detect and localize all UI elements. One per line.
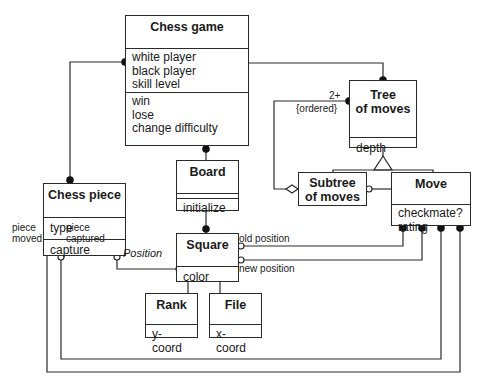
class-chess-game: Chess game white player black player ski… — [125, 15, 249, 146]
old-position-label: old position — [239, 233, 290, 244]
title-line: Tree — [354, 88, 412, 102]
class-title: Rank — [146, 294, 197, 324]
multiplicity-label: 2+ — [329, 90, 340, 101]
piece-captured-label: piece captured — [66, 222, 105, 244]
class-chess-piece: Chess piece type capture — [43, 183, 126, 256]
class-tree-of-moves: Tree of moves depth — [349, 80, 417, 148]
title-line: Subtree — [303, 176, 362, 190]
new-position-label: new position — [239, 263, 295, 274]
operation: change difficulty — [132, 122, 242, 136]
class-title: File — [210, 294, 261, 324]
ordered-label: {ordered} — [296, 103, 337, 114]
piece-moved-label: piece moved — [12, 222, 42, 244]
attribute: white player — [132, 51, 242, 65]
position-label: Position — [123, 248, 162, 259]
label-line: piece — [66, 222, 105, 233]
class-move: Move checkmate? rating — [391, 172, 471, 226]
attribute: color — [177, 266, 238, 287]
class-title: Tree of moves — [350, 81, 416, 137]
attributes: white player black player skill level — [126, 48, 248, 92]
class-rank: Rank y-coord — [145, 293, 198, 338]
class-title: Subtree of moves — [299, 173, 366, 208]
operation: lose — [132, 109, 242, 123]
attribute: y-coord — [146, 324, 197, 357]
class-title: Move — [392, 173, 470, 204]
title-line: of moves — [354, 102, 412, 116]
operation: win — [132, 95, 242, 109]
label-line: captured — [66, 233, 105, 244]
class-title: Board — [177, 161, 238, 193]
label-line: piece — [12, 222, 42, 233]
operation: initialize — [177, 198, 238, 218]
class-title: Chess piece — [44, 184, 125, 217]
attribute: skill level — [132, 78, 242, 92]
attribute: depth — [350, 137, 416, 158]
class-title: Chess game — [126, 16, 248, 48]
attribute: x-coord — [210, 324, 261, 357]
attribute: checkmate? — [398, 207, 464, 221]
attribute: rating — [398, 221, 464, 235]
attribute: black player — [132, 65, 242, 79]
class-board: Board initialize — [176, 160, 239, 211]
attributes: checkmate? rating — [392, 204, 470, 236]
class-subtree-of-moves: Subtree of moves — [298, 172, 367, 206]
class-square: Square color — [176, 233, 239, 282]
class-file: File x-coord — [209, 293, 262, 338]
label-line: moved — [12, 233, 42, 244]
class-title: Square — [177, 234, 238, 266]
title-line: of moves — [303, 190, 362, 204]
operations: win lose change difficulty — [126, 92, 248, 138]
